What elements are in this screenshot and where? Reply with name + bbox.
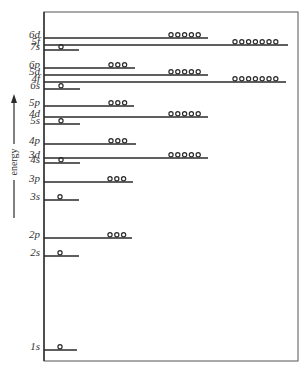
orbital-circle-icon	[58, 251, 62, 255]
orbital-circle-icon	[58, 195, 62, 199]
orbital-circle-icon	[176, 70, 180, 74]
orbital-circle-icon	[240, 40, 244, 44]
level-label: 1s	[30, 340, 40, 352]
orbital-circle-icon	[169, 153, 173, 157]
orbital-circle-icon	[196, 70, 200, 74]
energy-level-6p: 6p	[29, 58, 135, 70]
orbital-circle-icon	[109, 139, 113, 143]
orbital-circle-icon	[247, 77, 251, 81]
orbital-circle-icon	[176, 153, 180, 157]
orbital-circle-icon	[274, 40, 278, 44]
orbital-circle-icon	[122, 233, 126, 237]
energy-level-2s: 2s	[30, 246, 79, 258]
orbital-circle-icon	[196, 112, 200, 116]
orbital-circle-icon	[176, 112, 180, 116]
orbital-circle-icon	[109, 63, 113, 67]
orbital-circle-icon	[196, 33, 200, 37]
orbital-circle-icon	[176, 33, 180, 37]
orbital-circle-icon	[189, 112, 193, 116]
energy-axis-arrow: energy	[8, 94, 19, 218]
orbital-circle-icon	[247, 40, 251, 44]
energy-level-6d: 6d	[29, 28, 208, 40]
energy-level-4d: 4d	[29, 107, 208, 119]
energy-level-5p: 5p	[29, 96, 134, 108]
orbital-circle-icon	[274, 77, 278, 81]
level-label: 6s	[30, 79, 40, 91]
orbital-circle-icon	[189, 153, 193, 157]
orbital-circle-icon	[116, 101, 120, 105]
orbital-circle-icon	[123, 101, 127, 105]
orbital-circle-icon	[108, 177, 112, 181]
energy-level-3s: 3s	[29, 190, 79, 202]
orbital-circle-icon	[109, 101, 113, 105]
level-label: 5s	[30, 114, 40, 126]
orbital-energy-diagram: energy 6d5f7s6p5d4f6s5p4d5s4p3d4s3p3s2p2…	[0, 0, 305, 371]
level-label: 4s	[30, 153, 40, 165]
frame-border	[44, 12, 298, 361]
arrow-up-icon	[11, 94, 17, 103]
level-label: 3s	[29, 190, 40, 202]
orbital-circle-icon	[267, 77, 271, 81]
orbital-circle-icon	[183, 153, 187, 157]
energy-level-3d: 3d	[28, 148, 208, 160]
orbital-circle-icon	[183, 70, 187, 74]
orbital-circle-icon	[59, 84, 63, 88]
orbital-circle-icon	[116, 139, 120, 143]
level-label: 7s	[30, 40, 40, 52]
orbital-circle-icon	[116, 63, 120, 67]
orbital-circle-icon	[123, 63, 127, 67]
orbital-circle-icon	[240, 77, 244, 81]
orbital-circle-icon	[115, 177, 119, 181]
orbital-circle-icon	[59, 119, 63, 123]
energy-level-6s: 6s	[30, 79, 80, 91]
level-label: 3p	[28, 172, 41, 184]
orbital-circle-icon	[253, 40, 257, 44]
energy-level-5s: 5s	[30, 114, 80, 126]
energy-level-4f: 4f	[31, 72, 286, 84]
level-label: 4p	[29, 134, 41, 146]
orbital-circle-icon	[115, 233, 119, 237]
orbital-circle-icon	[183, 33, 187, 37]
energy-level-4p: 4p	[29, 134, 136, 146]
orbital-circle-icon	[123, 139, 127, 143]
energy-levels: 6d5f7s6p5d4f6s5p4d5s4p3d4s3p3s2p2s1s	[28, 28, 288, 352]
diagram-frame	[44, 12, 298, 361]
orbital-circle-icon	[260, 40, 264, 44]
orbital-circle-icon	[253, 77, 257, 81]
orbital-circle-icon	[189, 33, 193, 37]
orbital-circle-icon	[233, 77, 237, 81]
orbital-circle-icon	[260, 77, 264, 81]
orbital-circle-icon	[267, 40, 271, 44]
energy-level-1s: 1s	[30, 340, 77, 352]
energy-axis-label: energy	[8, 148, 19, 175]
orbital-circle-icon	[169, 112, 173, 116]
orbital-circle-icon	[122, 177, 126, 181]
energy-level-5f: 5f	[31, 35, 288, 47]
orbital-circle-icon	[189, 70, 193, 74]
orbital-circle-icon	[183, 112, 187, 116]
level-label: 2s	[30, 246, 40, 258]
orbital-circle-icon	[169, 33, 173, 37]
orbital-circle-icon	[108, 233, 112, 237]
level-label: 2p	[29, 228, 41, 240]
orbital-circle-icon	[196, 153, 200, 157]
orbital-circle-icon	[169, 70, 173, 74]
orbital-circle-icon	[233, 40, 237, 44]
orbital-circle-icon	[58, 345, 62, 349]
